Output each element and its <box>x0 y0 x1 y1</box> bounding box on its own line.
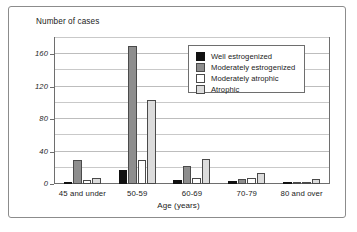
y-axis-tick-label: 120 <box>22 82 48 91</box>
bar <box>238 179 247 184</box>
legend-label: Moderately atrophic <box>211 74 279 83</box>
bar <box>128 46 137 184</box>
bar <box>83 180 92 184</box>
chart-legend: Well estrogenizedModerately estrogenized… <box>188 45 305 93</box>
x-axis-tick-label: 80 and over <box>262 189 342 198</box>
y-axis-tick-label: 160 <box>22 49 48 58</box>
chart-title: Number of cases <box>36 17 99 26</box>
bar <box>192 178 201 184</box>
legend-swatch-icon <box>196 74 205 83</box>
bar <box>183 166 192 184</box>
bar <box>92 178 101 184</box>
bar-group <box>110 38 165 184</box>
x-axis-title: Age (years) <box>0 201 357 210</box>
legend-item: Moderately estrogenized <box>196 62 295 73</box>
legend-swatch-icon <box>196 85 205 94</box>
bar <box>73 160 82 184</box>
legend-label: Atrophic <box>211 85 239 94</box>
bar <box>202 159 211 184</box>
bar <box>247 178 256 184</box>
legend-swatch-icon <box>196 52 205 61</box>
legend-item: Moderately atrophic <box>196 73 279 84</box>
bar <box>147 100 156 184</box>
legend-label: Well estrogenized <box>211 52 272 61</box>
bar <box>228 181 237 184</box>
bar <box>138 160 147 184</box>
y-axis-tick-mark <box>50 119 54 120</box>
bar <box>312 179 321 184</box>
y-axis-tick-mark <box>50 54 54 55</box>
y-axis-tick-mark <box>50 184 54 185</box>
y-axis-tick-mark <box>50 87 54 88</box>
legend-item: Well estrogenized <box>196 51 272 62</box>
bar <box>293 182 302 184</box>
legend-item: Atrophic <box>196 84 239 95</box>
y-axis-tick-label: 0 <box>22 179 48 188</box>
bar-group <box>55 38 110 184</box>
bar <box>119 170 128 184</box>
y-axis-tick-label: 80 <box>22 114 48 123</box>
y-axis-tick-mark <box>50 152 54 153</box>
bar <box>283 182 292 184</box>
legend-label: Moderately estrogenized <box>211 63 295 72</box>
bar <box>64 182 73 184</box>
bar <box>173 180 182 184</box>
bar <box>257 173 266 184</box>
legend-swatch-icon <box>196 63 205 72</box>
bar <box>302 182 311 184</box>
y-axis-tick-label: 40 <box>22 147 48 156</box>
figure-canvas: Number of cases 04080120160 45 and under… <box>0 0 357 232</box>
